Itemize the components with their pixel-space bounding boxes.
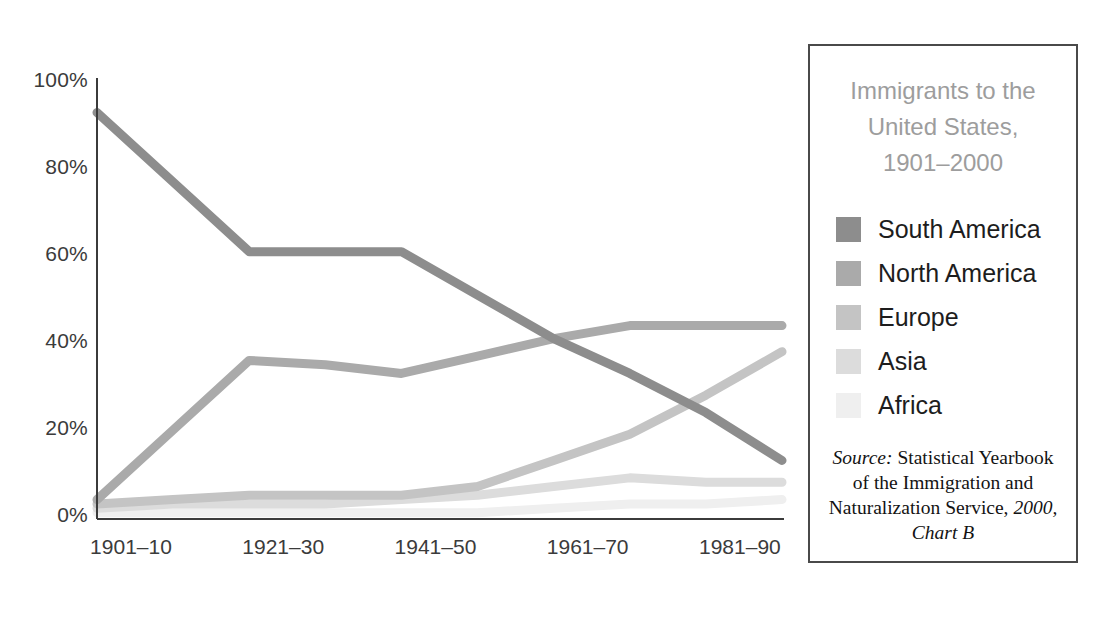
- legend-item-europe[interactable]: Europe: [836, 295, 1076, 339]
- legend-title-line: Immigrants to the: [824, 73, 1062, 109]
- legend-panel: Immigrants to theUnited States,1901–2000…: [808, 44, 1078, 563]
- axis-group: [97, 78, 784, 519]
- y-tick-label: 100%: [26, 68, 88, 92]
- y-tick-label: 80%: [26, 155, 88, 179]
- legend-swatch-icon: [836, 393, 861, 418]
- x-tick-label: 1961–70: [547, 535, 629, 559]
- legend-item-label: Asia: [878, 347, 927, 376]
- legend-item-south-america[interactable]: South America: [836, 207, 1076, 251]
- legend-swatch-icon: [836, 349, 861, 374]
- x-tick-label: 1981–90: [699, 535, 781, 559]
- x-tick-label: 1941–50: [395, 535, 477, 559]
- legend-item-africa[interactable]: Africa: [836, 383, 1076, 427]
- legend-title: Immigrants to theUnited States,1901–2000: [810, 73, 1076, 181]
- source-prefix: Source:: [833, 447, 893, 468]
- legend-item-label: North America: [878, 259, 1036, 288]
- chart-plot-area: 0%20%40%60%80%100% 1901–101921–301941–50…: [0, 0, 800, 635]
- legend-swatch-icon: [836, 217, 861, 242]
- y-tick-label: 20%: [26, 416, 88, 440]
- legend-item-north-america[interactable]: North America: [836, 251, 1076, 295]
- legend-source-note: Source: Statistical Yearbook of the Immi…: [810, 445, 1076, 545]
- chart-page: 0%20%40%60%80%100% 1901–101921–301941–50…: [0, 0, 1109, 635]
- legend-title-line: United States,: [824, 109, 1062, 145]
- legend-swatch-icon: [836, 305, 861, 330]
- x-axis-tick-labels: 1901–101921–301941–501961–701981–90: [0, 527, 800, 567]
- legend-item-label: Africa: [878, 391, 942, 420]
- legend-swatch-icon: [836, 261, 861, 286]
- legend-items: South AmericaNorth AmericaEuropeAsiaAfri…: [810, 207, 1076, 427]
- x-tick-label: 1921–30: [242, 535, 324, 559]
- y-tick-label: 40%: [26, 329, 88, 353]
- legend-item-label: South America: [878, 215, 1041, 244]
- legend-item-asia[interactable]: Asia: [836, 339, 1076, 383]
- legend-item-label: Europe: [878, 303, 959, 332]
- x-tick-label: 1901–10: [90, 535, 172, 559]
- y-tick-label: 60%: [26, 242, 88, 266]
- series-group: [97, 112, 782, 512]
- legend-title-line: 1901–2000: [824, 145, 1062, 181]
- y-tick-label: 0%: [26, 503, 88, 527]
